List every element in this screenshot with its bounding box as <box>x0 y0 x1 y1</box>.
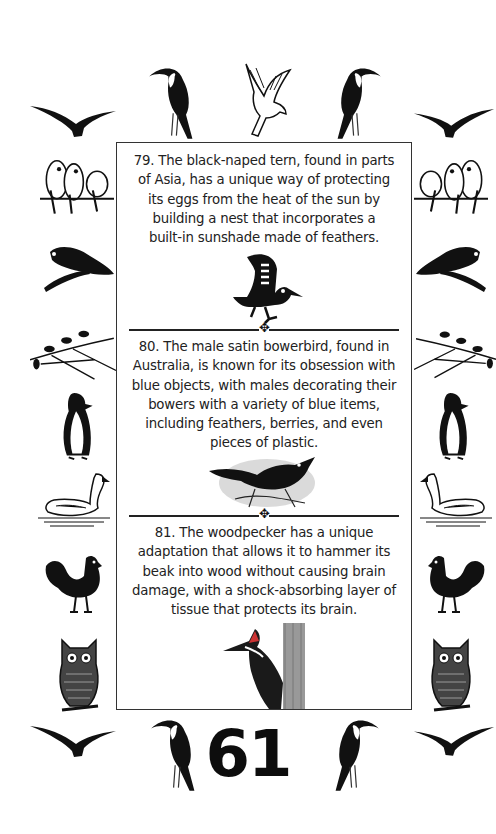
swan-icon <box>34 468 114 528</box>
ornamental-divider: ✥ <box>129 511 399 521</box>
fact-80: 80. The male satin bowerbird, found in A… <box>117 337 411 453</box>
facts-frame: 79. The black-naped tern, found in parts… <box>116 142 412 710</box>
penguin-icon <box>430 388 476 464</box>
ornament-icon: ✥ <box>259 506 270 521</box>
fact-line: pieces of plastic. <box>117 433 411 452</box>
fact-line: bowers with a variety of blue items, <box>117 395 411 414</box>
lovebirds-icon <box>40 152 114 216</box>
penguin-icon <box>54 388 100 464</box>
fact-line: Australia, is known for its obsession wi… <box>117 356 411 375</box>
flying-bird-silhouette-icon <box>28 100 118 140</box>
fact-line: blue objects, with males decorating thei… <box>117 376 411 395</box>
fact-line: its eggs from the heat of the sun by <box>117 190 411 209</box>
fact-line: beak into wood without causing brain <box>117 562 411 581</box>
fact-line: 79. The black-naped tern, found in parts <box>117 151 411 170</box>
ornament-icon: ✥ <box>259 320 270 335</box>
toucan-icon <box>312 62 392 142</box>
fact-line: of Asia, has a unique way of protecting <box>117 170 411 189</box>
fact-line: including feathers, berries, and even <box>117 414 411 433</box>
toucan-icon <box>310 714 390 794</box>
fact-line: building a nest that incorporates a <box>117 209 411 228</box>
birds-on-branch-icon <box>414 314 496 384</box>
owl-icon <box>54 634 104 714</box>
owl-icon <box>426 634 476 714</box>
parrot-icon <box>36 238 116 298</box>
woodpecker-engraving-icon <box>221 623 311 709</box>
bowerbird-engraving-icon <box>205 453 325 509</box>
fact-line: adaptation that allows it to hammer its <box>117 542 411 561</box>
fact-line: built-in sunshade made of feathers. <box>117 228 411 247</box>
flying-bird-silhouette-icon <box>412 720 496 760</box>
fact-line: 80. The male satin bowerbird, found in <box>117 337 411 356</box>
lovebirds-icon <box>414 152 488 216</box>
fact-line: 81. The woodpecker has a unique <box>117 523 411 542</box>
swan-icon <box>416 468 496 528</box>
stylized-tern-icon <box>225 247 305 327</box>
toucan-icon <box>138 62 218 142</box>
rooster-icon <box>42 546 112 616</box>
dove-icon <box>236 60 296 140</box>
parrot-icon <box>414 238 494 298</box>
flying-bird-silhouette-icon <box>412 102 496 142</box>
rooster-icon <box>418 546 488 616</box>
fact-79: 79. The black-naped tern, found in parts… <box>117 151 411 247</box>
fact-81: 81. The woodpecker has a unique adaptati… <box>117 523 411 619</box>
fact-line: tissue that protects its brain. <box>117 600 411 619</box>
ornamental-divider: ✥ <box>129 325 399 335</box>
birds-on-branch-icon <box>30 314 116 384</box>
fact-line: damage, with a shock-absorbing layer of <box>117 581 411 600</box>
